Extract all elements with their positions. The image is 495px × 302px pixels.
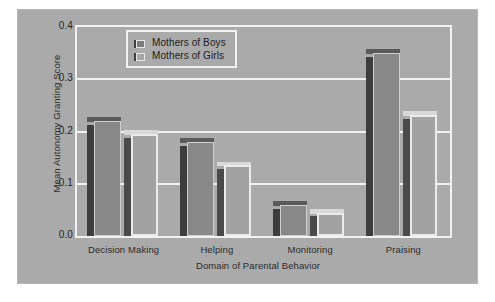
bar-boys xyxy=(94,121,121,236)
y-tick-label: 0.1 xyxy=(39,177,73,188)
bar-front-face xyxy=(317,213,344,237)
bar-side-face xyxy=(87,125,94,236)
bar-front-face xyxy=(410,115,437,236)
legend-swatch-icon xyxy=(134,51,145,61)
y-tick-label: 0.0 xyxy=(39,229,73,240)
bar-side-face xyxy=(124,138,131,236)
legend-item-girls: Mothers of Girls xyxy=(134,49,226,62)
legend-label: Mothers of Girls xyxy=(152,50,224,61)
bar-front-face xyxy=(373,53,400,236)
y-tick-label: 0.3 xyxy=(39,72,73,83)
x-tick-label: Praising xyxy=(343,244,463,255)
bar-girls xyxy=(317,213,344,237)
bar-side-face xyxy=(273,209,280,237)
bar-side-face xyxy=(310,216,317,236)
bar-side-face xyxy=(180,146,187,236)
legend-label: Mothers of Boys xyxy=(152,37,226,48)
bar-front-face xyxy=(280,205,307,236)
bar-front-face xyxy=(224,165,251,236)
legend-item-boys: Mothers of Boys xyxy=(134,36,226,49)
legend-swatch-icon xyxy=(134,38,145,48)
bar-side-face xyxy=(217,169,224,236)
bar-side-face xyxy=(366,57,373,236)
chart-legend: Mothers of Boys Mothers of Girls xyxy=(126,30,237,68)
bar-girls xyxy=(410,115,437,236)
bar-side-face xyxy=(403,119,410,236)
bar-boys xyxy=(373,53,400,236)
figure-canvas: Mean Autonomy Granting Score 0.4 0.3 0.2… xyxy=(0,0,495,302)
x-axis-title: Domain of Parental Behavior xyxy=(58,260,458,271)
y-axis-title: Mean Autonomy Granting Score xyxy=(51,24,62,224)
bar-boys xyxy=(280,205,307,236)
chart-card: Mean Autonomy Granting Score 0.4 0.3 0.2… xyxy=(18,10,477,283)
bar-front-face xyxy=(187,142,214,236)
bar-front-face xyxy=(131,134,158,236)
bar-front-face xyxy=(94,121,121,236)
y-tick-label: 0.2 xyxy=(39,125,73,136)
bar-girls xyxy=(224,165,251,236)
bar-girls xyxy=(131,134,158,236)
y-tick-label: 0.4 xyxy=(39,20,73,31)
bar-boys xyxy=(187,142,214,236)
